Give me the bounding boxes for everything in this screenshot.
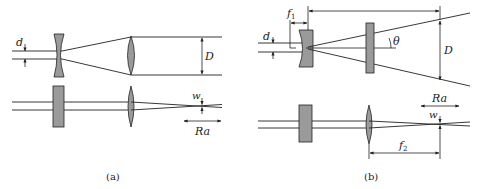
concave-lens-icon <box>54 34 64 77</box>
panel-b: θ d f1 D <box>258 6 470 182</box>
label-d: d <box>16 36 23 49</box>
plate-element-icon <box>299 105 312 142</box>
caption-a: (a) <box>106 171 120 182</box>
label-w: w <box>192 90 201 101</box>
plate-element-icon <box>53 86 64 127</box>
panel-b-focusing: w Ra f2 <box>258 92 470 159</box>
diverging-ray-upper <box>308 13 470 47</box>
panel-b-diverging: θ d f1 D <box>258 6 470 86</box>
focusing-lens-icon <box>366 105 372 144</box>
diverging-ray-upper <box>62 37 131 51</box>
label-D: D <box>204 50 214 63</box>
label-Ra: Ra <box>431 92 447 105</box>
converging-ray-upper <box>131 102 222 108</box>
concave-lens-icon <box>299 30 313 67</box>
plate-element-icon <box>366 23 374 73</box>
theta-arc <box>389 38 391 48</box>
focusing-lens-icon <box>128 86 134 127</box>
optics-diagram: d D w Ra (a) <box>0 0 479 189</box>
label-D: D <box>443 44 453 57</box>
label-f2: f2 <box>398 139 408 153</box>
label-w: w <box>429 109 438 120</box>
label-theta: θ <box>393 35 400 48</box>
convex-lens-icon <box>128 36 135 75</box>
caption-b: (b) <box>364 171 378 182</box>
label-d: d <box>263 30 270 43</box>
panel-a: d D w Ra (a) <box>12 34 222 182</box>
label-f1: f1 <box>286 7 296 21</box>
label-Ra: Ra <box>194 125 210 138</box>
converging-ray-lower <box>131 105 222 111</box>
panel-a-focusing: w Ra <box>12 86 222 138</box>
panel-a-beam-expander: d D <box>12 34 222 77</box>
diverging-ray-lower <box>62 59 131 75</box>
